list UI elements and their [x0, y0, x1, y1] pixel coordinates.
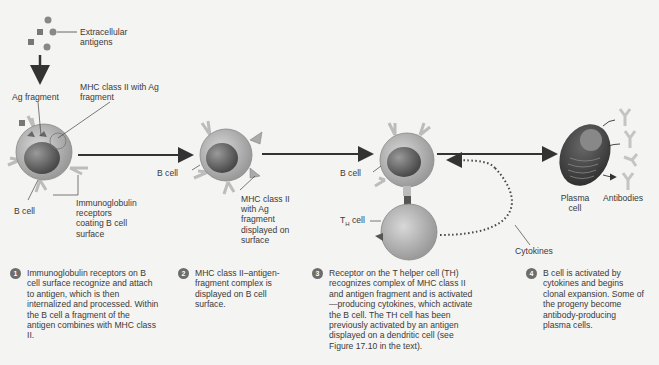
label-b-cell-2: B cell — [157, 168, 178, 178]
label-mhc-with-fragment: MHC class II with Ag fragment — [80, 82, 160, 102]
antigen-particles — [28, 17, 77, 51]
b-cell-3 — [373, 123, 434, 206]
step-number-badge: 2 — [178, 268, 189, 279]
b-cell-2 — [192, 121, 262, 194]
step-number-badge: 4 — [526, 268, 537, 279]
label-b-cell-3: B cell — [340, 168, 361, 178]
step-text: B cell is activated by cytokines and beg… — [543, 268, 646, 330]
step-number-badge: 3 — [312, 268, 323, 279]
step-1: 1 Immunoglobulin receptors on B cell sur… — [10, 268, 160, 341]
plasma-cell — [550, 116, 621, 194]
th-cell — [370, 204, 437, 260]
step-number-badge: 1 — [10, 268, 21, 279]
label-extracellular-antigens: Extracellular antigens — [80, 27, 140, 47]
label-plasma-cell: Plasma cell — [560, 193, 590, 213]
cytokine-path-upper — [450, 160, 495, 168]
label-cytokines: Cytokines — [515, 246, 553, 256]
step-text: MHC class II–antigen-fragment complex is… — [195, 268, 283, 310]
label-antibodies: Antibodies — [603, 193, 643, 203]
step-text: Immunoglobulin receptors on B cell surfa… — [27, 268, 160, 341]
step-text: Receptor on the T helper cell (TH) recog… — [329, 268, 480, 351]
step-3: 3 Receptor on the T helper cell (TH) rec… — [312, 268, 480, 351]
label-ag-fragment: Ag fragment — [12, 92, 59, 102]
step-2: 2 MHC class II–antigen-fragment complex … — [178, 268, 283, 310]
b-cell-1 — [8, 102, 110, 200]
label-th-cell: TH cell — [340, 215, 365, 229]
step-4: 4 B cell is activated by cytokines and b… — [526, 268, 646, 330]
label-mhc-displayed: MHC class II with Ag fragment displayed … — [241, 194, 299, 245]
cytokine-path-lower — [440, 168, 512, 235]
antibodies-icons — [620, 109, 637, 190]
label-ig-receptors: Immunoglobulin receptors coating B cell … — [76, 198, 138, 239]
label-b-cell-1: B cell — [14, 206, 35, 216]
